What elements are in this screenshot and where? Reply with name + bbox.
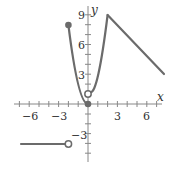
y-tick-label: −3	[71, 129, 87, 142]
x-axis-label: x	[157, 90, 164, 104]
y-tick-label: 3	[78, 69, 85, 82]
x-tick-label: −6	[22, 110, 38, 123]
y-axis-label: y	[90, 3, 98, 17]
x-tick-label: 6	[143, 110, 150, 123]
y-tick-label: 9	[78, 9, 85, 22]
y-tick-label: 6	[78, 39, 85, 52]
open-endpoint	[65, 141, 71, 147]
closed-endpoint	[85, 101, 92, 108]
parabola-right-segment	[91, 15, 108, 92]
linear-segment	[108, 15, 164, 74]
open-endpoint	[85, 91, 91, 97]
x-tick-label: −3	[51, 110, 67, 123]
closed-endpoint	[65, 22, 72, 29]
piecewise-function-chart: x y −6 −3 3 6 9 6 3 −3	[0, 0, 174, 177]
x-tick-label: 3	[114, 110, 121, 123]
